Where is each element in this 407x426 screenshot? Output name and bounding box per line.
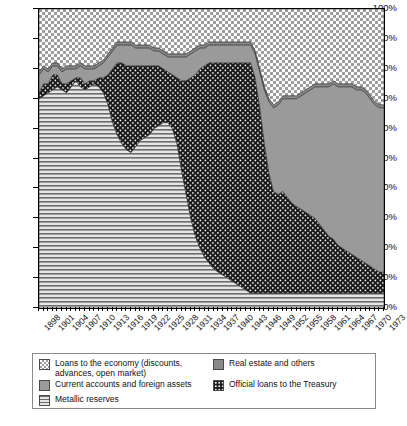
x-axis-tick-mark xyxy=(309,307,310,311)
x-axis-tick-mark xyxy=(296,307,297,311)
x-axis-tick-mark xyxy=(135,307,136,311)
legend-item-label: Official loans to the Treasury xyxy=(229,379,337,389)
x-axis-tick-mark xyxy=(190,307,191,311)
x-axis-tick-mark xyxy=(43,307,44,311)
x-axis-tick-mark xyxy=(365,307,366,311)
x-axis-tick-mark xyxy=(213,307,214,311)
x-axis-tick-mark xyxy=(75,307,76,311)
x-axis-tick-mark xyxy=(158,307,159,311)
x-axis-tick-mark xyxy=(282,307,283,311)
solid-gray-swatch xyxy=(39,380,50,391)
x-axis-tick-mark xyxy=(227,307,228,311)
x-axis-tick-mark xyxy=(167,307,168,311)
x-axis-tick-mark xyxy=(61,307,62,311)
x-axis-tick-mark xyxy=(125,307,126,311)
x-axis-tick-mark xyxy=(314,307,315,311)
x-axis-tick-mark xyxy=(176,307,177,311)
x-axis-tick-mark xyxy=(148,307,149,311)
x-axis-tick-mark xyxy=(162,307,163,311)
x-axis-tick-mark xyxy=(240,307,241,311)
x-axis-tick-mark xyxy=(369,307,370,311)
x-axis-tick-mark xyxy=(89,307,90,311)
x-axis-tick-mark xyxy=(222,307,223,311)
plot-area xyxy=(38,8,385,309)
x-axis-tick-mark xyxy=(351,307,352,311)
legend-item-label: Current accounts and foreign assets xyxy=(55,379,192,389)
x-axis-tick-mark xyxy=(305,307,306,311)
x-axis-tick-mark xyxy=(181,307,182,311)
x-axis-tick-mark xyxy=(383,307,384,311)
x-axis-tick-mark xyxy=(277,307,278,311)
x-axis-tick-mark xyxy=(332,307,333,311)
x-axis-tick-mark xyxy=(171,307,172,311)
legend-item: Metallic reserves xyxy=(39,394,209,406)
legend-item: Current accounts and foreign assets xyxy=(39,379,209,391)
x-axis-tick-mark xyxy=(273,307,274,311)
x-axis-tick-mark xyxy=(245,307,246,311)
x-axis-tick-mark xyxy=(286,307,287,311)
x-axis-tick-mark xyxy=(231,307,232,311)
x-axis-tick-mark xyxy=(323,307,324,311)
x-axis-tick-mark xyxy=(250,307,251,311)
x-axis-tick-mark xyxy=(300,307,301,311)
x-axis-tick-mark xyxy=(107,307,108,311)
stacked-area-svg xyxy=(39,9,384,308)
x-axis-tick-mark xyxy=(268,307,269,311)
x-axis-tick-mark xyxy=(355,307,356,311)
x-axis-tick-mark xyxy=(199,307,200,311)
mid-gray-swatch xyxy=(213,359,224,370)
x-axis-tick-mark xyxy=(185,307,186,311)
x-axis-tick-mark xyxy=(79,307,80,311)
legend-item: Loans to the economy (discounts, advance… xyxy=(39,358,199,378)
x-axis-tick-mark xyxy=(346,307,347,311)
x-axis-tick-mark xyxy=(139,307,140,311)
x-axis-tick-mark xyxy=(194,307,195,311)
x-axis-tick-mark xyxy=(144,307,145,311)
x-axis-tick-mark xyxy=(153,307,154,311)
legend-item: Official loans to the Treasury xyxy=(213,379,368,391)
x-axis-tick-mark xyxy=(342,307,343,311)
x-axis-tick-mark xyxy=(38,307,39,311)
horizontal-lines-swatch xyxy=(39,395,50,406)
x-axis-tick-mark xyxy=(102,307,103,311)
x-axis-tick-mark xyxy=(360,307,361,311)
chart-legend: Loans to the economy (discounts, advance… xyxy=(32,353,376,409)
legend-item-label: Loans to the economy (discounts, advance… xyxy=(55,358,199,378)
legend-item: Real estate and others xyxy=(213,358,368,370)
x-axis-tick-mark xyxy=(208,307,209,311)
x-axis-tick-mark xyxy=(328,307,329,311)
x-axis-tick-mark xyxy=(374,307,375,311)
x-axis-tick-mark xyxy=(236,307,237,311)
x-axis-tick-mark xyxy=(52,307,53,311)
x-axis-tick-mark xyxy=(70,307,71,311)
x-axis-tick-mark xyxy=(291,307,292,311)
x-axis-tick-mark xyxy=(56,307,57,311)
dark-dotted-swatch xyxy=(213,380,224,391)
x-axis-tick-mark xyxy=(112,307,113,311)
x-axis-tick-mark xyxy=(130,307,131,311)
x-axis-tick-mark xyxy=(263,307,264,311)
checkerboard-swatch xyxy=(39,359,50,370)
x-axis-tick-mark xyxy=(47,307,48,311)
x-axis-tick-mark xyxy=(204,307,205,311)
x-axis-tick-mark xyxy=(259,307,260,311)
x-axis-tick-mark xyxy=(66,307,67,311)
x-axis-tick-mark xyxy=(93,307,94,311)
legend-item-label: Real estate and others xyxy=(229,358,315,368)
x-axis-tick-mark xyxy=(337,307,338,311)
x-axis-tick-mark xyxy=(319,307,320,311)
x-axis-tick-mark xyxy=(84,307,85,311)
x-axis-tick-mark xyxy=(254,307,255,311)
x-axis-tick-mark xyxy=(116,307,117,311)
x-axis-tick-mark xyxy=(217,307,218,311)
x-axis-tick-mark xyxy=(378,307,379,311)
legend-item-label: Metallic reserves xyxy=(55,394,119,404)
x-axis-tick-mark xyxy=(98,307,99,311)
x-axis-tick-mark xyxy=(121,307,122,311)
